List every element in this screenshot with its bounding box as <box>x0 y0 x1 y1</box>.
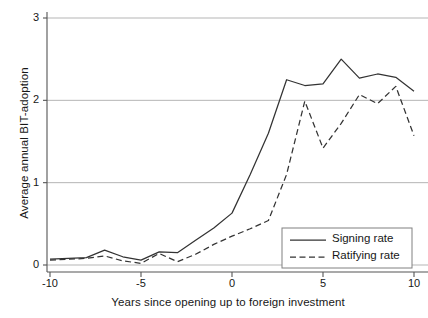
y-tick-label-0: 0 <box>23 258 39 270</box>
x-tick-label-0: 0 <box>212 277 252 289</box>
legend-label-signing-rate: Signing rate <box>332 232 393 244</box>
y-tick-label-3: 3 <box>23 11 39 23</box>
x-tick-label-10: 10 <box>394 277 428 289</box>
legend-label-ratifying-rate: Ratifying rate <box>332 249 400 261</box>
x-tick-label-5: 5 <box>303 277 343 289</box>
x-axis-title: Years since opening up to foreign invest… <box>38 296 418 308</box>
x-tick-label--10: -10 <box>30 277 70 289</box>
y-axis-title: Average annual BIT-adoption <box>16 8 32 278</box>
y-tick-label-1: 1 <box>23 176 39 188</box>
line-chart-canvas <box>0 0 428 318</box>
y-tick-label-2: 2 <box>23 93 39 105</box>
x-tick-label--5: -5 <box>121 277 161 289</box>
chart-figure: Average annual BIT-adoption Years since … <box>0 0 428 318</box>
